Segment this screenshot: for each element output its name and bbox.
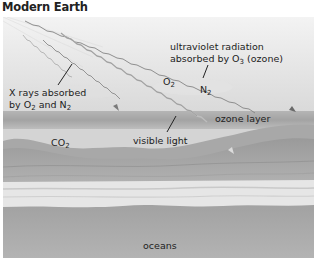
shoreline-surf bbox=[3, 180, 314, 207]
o2-label: O2 bbox=[163, 76, 175, 88]
n2-label: N2 bbox=[200, 84, 212, 96]
diagram-title: Modern Earth bbox=[2, 0, 88, 14]
xray-label: X rays absorbed by O2 and N2 bbox=[9, 87, 86, 111]
visible-light-label: visible light bbox=[133, 135, 187, 147]
earth-atmosphere-illustration: ultraviolet radiation absorbed by O3 (oz… bbox=[3, 17, 314, 258]
oceans-label: oceans bbox=[143, 240, 177, 252]
ozone-layer-label: ozone layer bbox=[215, 113, 270, 125]
uv-label: ultraviolet radiation absorbed by O3 (oz… bbox=[170, 41, 283, 65]
co2-label: CO2 bbox=[51, 137, 70, 149]
